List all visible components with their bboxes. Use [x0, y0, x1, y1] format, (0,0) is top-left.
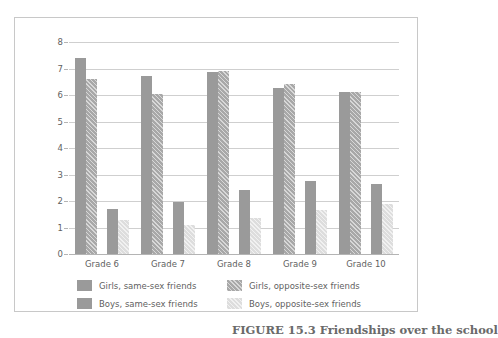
x-axis-tick-label: Grade 9: [270, 259, 330, 269]
y-axis-tick-mark: [64, 69, 68, 70]
y-axis-tick-label: 7: [37, 65, 63, 74]
figure-panel: Mean number of friends 012345678 Grade 6…: [14, 17, 418, 312]
bar-group: [333, 42, 399, 254]
y-axis-tick-label: 2: [37, 197, 63, 206]
y-axis-tick-label: 5: [37, 118, 63, 127]
bar: [339, 92, 350, 254]
bar: [382, 204, 393, 254]
bar-group: [135, 42, 201, 254]
bar: [152, 94, 163, 254]
bar: [218, 71, 229, 254]
x-axis-tick-label: Grade 8: [204, 259, 264, 269]
chart-legend: Girls, same-sex friends Girls, opposite-…: [77, 280, 397, 316]
y-axis-tick-mark: [64, 95, 68, 96]
x-axis-tick-label: Grade 6: [72, 259, 132, 269]
bar: [141, 76, 152, 254]
x-axis-tick-label: Grade 10: [336, 259, 396, 269]
bar: [284, 84, 295, 254]
legend-item-girls-opposite-sex-friends: Girls, opposite-sex friends: [227, 280, 387, 291]
bars-layer: [69, 42, 399, 254]
bar: [273, 88, 284, 254]
y-axis-tick-mark: [64, 201, 68, 202]
legend-label: Girls, same-sex friends: [99, 281, 196, 291]
bar-group: [69, 42, 135, 254]
bar: [184, 225, 195, 254]
bar: [371, 184, 382, 254]
legend-item-girls-same-sex-friends: Girls, same-sex friends: [77, 280, 227, 291]
bar: [239, 190, 250, 254]
legend-label: Boys, same-sex friends: [99, 299, 198, 309]
y-axis-tick-mark: [64, 228, 68, 229]
y-axis-tick-mark: [64, 122, 68, 123]
y-axis-tick-mark: [64, 42, 68, 43]
bar: [207, 72, 218, 254]
legend-swatch-icon: [227, 280, 242, 291]
bar: [107, 209, 118, 254]
legend-swatch-icon: [77, 280, 92, 291]
legend-swatch-icon: [77, 298, 92, 309]
bar-group: [201, 42, 267, 254]
figure-caption: FIGURE 15.3 Friendships over the school: [232, 323, 498, 337]
legend-row: Girls, same-sex friends Girls, opposite-…: [77, 280, 397, 291]
y-axis-tick-mark: [64, 175, 68, 176]
bar: [350, 92, 361, 254]
y-axis-tick-label: 1: [37, 224, 63, 233]
bar: [316, 210, 327, 254]
x-axis-tick-label: Grade 7: [138, 259, 198, 269]
y-axis-tick-mark: [64, 254, 68, 255]
legend-label: Boys, opposite-sex friends: [249, 299, 361, 309]
bar: [118, 220, 129, 254]
y-axis-tick-label: 3: [37, 171, 63, 180]
bar: [305, 181, 316, 254]
bar: [173, 202, 184, 254]
legend-swatch-icon: [227, 298, 242, 309]
x-axis-line: [69, 254, 399, 255]
bar: [250, 218, 261, 254]
bar: [86, 79, 97, 254]
y-axis-tick-label: 0: [37, 250, 63, 259]
legend-item-boys-opposite-sex-friends: Boys, opposite-sex friends: [227, 298, 387, 309]
legend-item-boys-same-sex-friends: Boys, same-sex friends: [77, 298, 227, 309]
legend-row: Boys, same-sex friends Boys, opposite-se…: [77, 298, 397, 309]
plot-area: 012345678: [69, 42, 399, 254]
y-axis-tick-label: 4: [37, 144, 63, 153]
bar-group: [267, 42, 333, 254]
y-axis-tick-label: 8: [37, 38, 63, 47]
legend-label: Girls, opposite-sex friends: [249, 281, 360, 291]
bar: [75, 58, 86, 254]
y-axis-tick-mark: [64, 148, 68, 149]
y-axis-tick-label: 6: [37, 91, 63, 100]
